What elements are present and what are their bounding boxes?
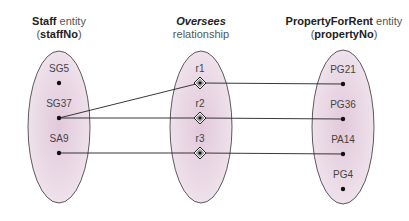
entity-dot — [57, 151, 61, 155]
relationship-dot — [198, 116, 202, 120]
entity-label: SG37 — [46, 98, 72, 109]
entity-label: SG5 — [49, 63, 69, 74]
entity-label: PA14 — [331, 134, 355, 145]
diagram-canvas: SG5 SG37 SA9 r1 r2 r3 PG21 PG36 PA14 — [0, 0, 409, 221]
relationship-dot — [198, 81, 202, 85]
entity-label: PG4 — [333, 169, 353, 180]
entity-dot — [341, 187, 345, 191]
relationship-dot — [198, 151, 202, 155]
entity-dot — [341, 152, 345, 156]
relationship-label: r3 — [196, 133, 205, 144]
entity-dot — [341, 117, 345, 121]
entity-dot — [57, 116, 61, 120]
entity-label: PG21 — [330, 64, 356, 75]
entity-dot — [57, 81, 61, 85]
entity-dot — [341, 82, 345, 86]
relationship-label: r2 — [196, 98, 205, 109]
entity-label: SA9 — [50, 133, 69, 144]
entity-label: PG36 — [330, 99, 356, 110]
relationship-label: r1 — [196, 63, 205, 74]
